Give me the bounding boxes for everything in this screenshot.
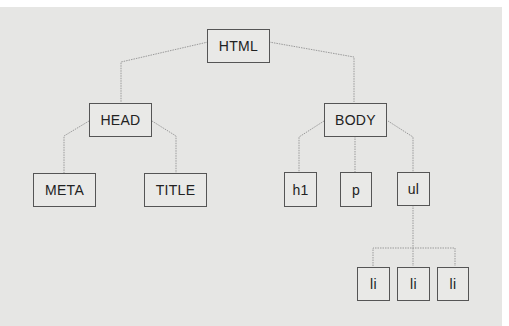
node-head: HEAD <box>89 103 152 137</box>
node-h1: h1 <box>284 172 317 207</box>
node-body: BODY <box>324 103 387 137</box>
node-meta: META <box>33 173 96 207</box>
node-ul: ul <box>397 172 430 206</box>
node-li-1: li <box>357 267 390 301</box>
node-li-3: li <box>437 267 469 301</box>
node-html: HTML <box>207 29 270 63</box>
node-p: p <box>340 172 372 207</box>
node-title: TITLE <box>144 173 207 207</box>
node-li-2: li <box>397 267 430 301</box>
